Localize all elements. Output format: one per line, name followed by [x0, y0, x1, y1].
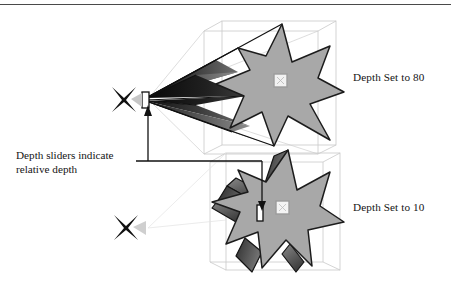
upper-center-handle[interactable]: [274, 74, 287, 87]
upper-cone-wedge: [131, 93, 142, 107]
caption-depth-sliders: Depth sliders indicate relative depth: [16, 149, 146, 177]
lower-center-handle[interactable]: [276, 201, 289, 214]
label-depth-10: Depth Set to 10: [353, 201, 424, 215]
caption-line-1: Depth sliders indicate: [16, 149, 146, 163]
illustration-canvas: [0, 0, 451, 288]
lower-cone-wedge: [133, 221, 146, 235]
caption-line-2: relative depth: [16, 163, 146, 177]
lower-perspective-guide-2: [148, 220, 226, 228]
upper-scene: [112, 21, 344, 154]
label-depth-80: Depth Set to 80: [353, 71, 424, 85]
figure-root: Depth Set to 80 Depth Set to 10 Depth sl…: [0, 0, 451, 288]
lower-scene: [114, 150, 344, 272]
lower-perspective-guide: [148, 153, 226, 228]
